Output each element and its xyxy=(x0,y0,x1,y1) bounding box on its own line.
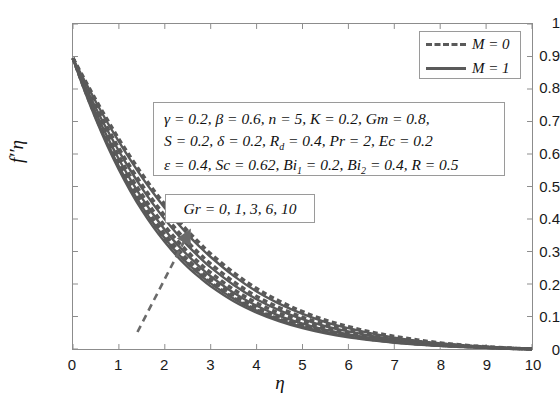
x-tick-label: 8 xyxy=(421,356,461,373)
x-tick-label: 2 xyxy=(144,356,184,373)
x-tick-label: 6 xyxy=(329,356,369,373)
x-tick-label: 3 xyxy=(190,356,230,373)
x-tick-label: 1 xyxy=(98,356,138,373)
parameter-box: γ = 0.2, β = 0.6, n = 5, K = 0.2, Gm = 0… xyxy=(153,102,505,176)
parameter-line-2: S = 0.2, δ = 0.2, Rd = 0.4, Pr = 2, Ec =… xyxy=(164,130,504,154)
parameter-line-3: ε = 0.4, Sc = 0.62, Bi1 = 0.2, Bi2 = 0.4… xyxy=(164,154,504,178)
parameter-line-1: γ = 0.2, β = 0.6, n = 5, K = 0.2, Gm = 0… xyxy=(164,108,504,130)
x-tick-label: 9 xyxy=(467,356,507,373)
x-tick-label: 10 xyxy=(513,356,553,373)
figure-container: 00.10.20.30.40.50.60.70.80.91 f′′η 01234… xyxy=(0,0,560,410)
legend-label-m0: M = 0 xyxy=(472,36,510,53)
x-axis-label: η xyxy=(0,372,560,394)
x-tick-label: 4 xyxy=(236,356,276,373)
x-tick-label: 0 xyxy=(52,356,92,373)
legend-item-m1: M = 1 xyxy=(420,56,520,80)
x-tick-label: 5 xyxy=(283,356,323,373)
gr-annotation-box: Gr = 0, 1, 3, 6, 10 xyxy=(165,194,315,223)
gr-annotation-text: Gr = 0, 1, 3, 6, 10 xyxy=(184,200,297,218)
x-tick-label: 7 xyxy=(375,356,415,373)
legend-label-m1: M = 1 xyxy=(472,60,510,77)
legend: M = 0 M = 1 xyxy=(419,31,521,79)
legend-item-m0: M = 0 xyxy=(420,32,520,56)
y-axis-label: f′′η xyxy=(6,140,28,163)
legend-dashed-swatch xyxy=(426,43,466,46)
legend-solid-swatch xyxy=(426,67,466,70)
